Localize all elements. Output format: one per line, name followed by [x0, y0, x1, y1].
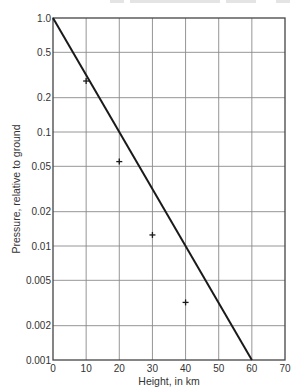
- x-tick-label: 0: [50, 363, 56, 374]
- data-point-plus-marker: [183, 299, 189, 305]
- y-tick-label: 0.05: [32, 161, 52, 172]
- data-point-plus-marker: [116, 159, 122, 165]
- y-tick-label: 0.002: [26, 320, 51, 331]
- x-tick-label: 30: [147, 363, 159, 374]
- y-tick-label: 0.2: [37, 92, 51, 103]
- y-tick-label: 0.1: [37, 127, 51, 138]
- chart: 1.00.50.20.10.050.020.010.0050.0020.001 …: [0, 0, 301, 391]
- y-axis-ticks: 1.00.50.20.10.050.020.010.0050.0020.001: [26, 13, 51, 366]
- y-tick-label: 0.005: [26, 275, 51, 286]
- y-tick-label: 0.02: [32, 206, 52, 217]
- x-tick-label: 40: [180, 363, 192, 374]
- x-tick-label: 60: [246, 363, 258, 374]
- grid-lines: [53, 18, 285, 360]
- y-tick-label: 0.01: [32, 241, 52, 252]
- x-tick-label: 50: [213, 363, 225, 374]
- x-tick-label: 70: [279, 363, 291, 374]
- y-tick-label: 1.0: [37, 13, 51, 24]
- plot-frame: [53, 18, 285, 360]
- x-tick-label: 10: [81, 363, 93, 374]
- y-axis-label: Pressure, relative to ground: [10, 124, 22, 253]
- x-axis-ticks: 010203040506070: [50, 363, 291, 374]
- x-axis-label: Height, in km: [138, 375, 200, 387]
- y-tick-label: 0.001: [26, 355, 51, 366]
- y-tick-label: 0.5: [37, 47, 51, 58]
- x-tick-label: 20: [114, 363, 126, 374]
- data-point-plus-marker: [149, 232, 155, 238]
